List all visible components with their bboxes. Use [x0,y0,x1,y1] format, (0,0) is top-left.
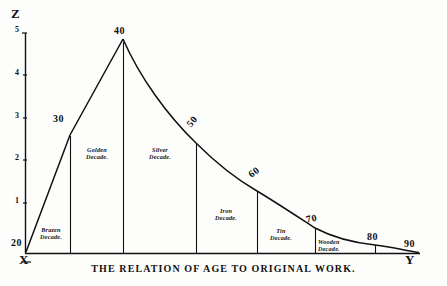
decade-band-silver-word: Decade. [149,153,171,160]
decade-band-silver: Silver Decade. [141,146,179,161]
decade-band-golden-word: Decade. [86,153,108,160]
decade-band-iron-word: Decade. [215,214,237,221]
decade-band-brazen-name: Brazen [41,226,60,233]
axis-label-z: Z [11,6,20,22]
decade-point-70: 70 [305,212,318,225]
decade-band-brazen: Brazen Decade. [33,226,69,241]
decade-band-tin-word: Decade. [270,234,292,241]
y-tick-3: 3 [15,111,19,120]
decade-band-tin: Tin Decade. [262,227,300,242]
y-tick-1: 1 [15,196,19,205]
y-tick-5: 5 [15,25,19,34]
decade-band-golden-name: Golden [87,146,107,153]
decade-band-tin-name: Tin [276,227,285,234]
decade-band-wooden: Wooden Decade. [318,238,360,253]
chart-vector [0,0,447,286]
decade-band-golden: Golden Decade. [78,146,116,161]
decade-point-40: 40 [114,25,125,36]
decade-point-20: 20 [11,237,22,248]
y-tick-2: 2 [15,153,19,162]
y-axis-ticks [22,33,27,203]
decade-band-iron: Iron Decade. [207,207,245,222]
y-tick-4: 4 [15,68,19,77]
decade-band-iron-name: Iron [220,207,232,214]
decade-point-90: 90 [404,238,415,249]
decade-band-silver-name: Silver [152,146,168,153]
decade-point-80: 80 [367,231,378,242]
figure-canvas: Z X Y 5 4 3 2 1 20 30 40 50 60 70 80 90 … [0,0,447,286]
decade-point-30: 30 [53,113,64,124]
decade-band-wooden-word: Decade. [318,245,340,252]
figure-caption: THE RELATION OF AGE TO ORIGINAL WORK. [0,263,447,274]
decade-band-wooden-name: Wooden [318,238,340,245]
decade-band-brazen-word: Decade. [40,233,62,240]
